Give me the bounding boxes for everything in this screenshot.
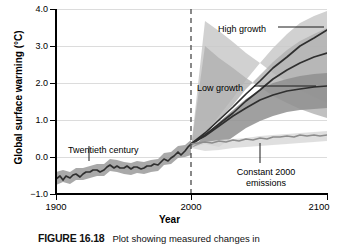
x-tick-label-1900: 1900 (36, 201, 76, 212)
figure-caption-text: Plot showing measured changes in (112, 233, 259, 244)
y-tick-label-neg1: −1.0 (22, 190, 48, 199)
x-axis-title: Year (0, 214, 339, 225)
y-tick-label-0: 0.0 (22, 153, 48, 162)
x-tick-mark-2100 (327, 195, 328, 200)
annotation-twentieth-century: Twentieth century (68, 145, 139, 155)
figure-number: FIGURE 16.18 (38, 232, 104, 244)
y-tick-label-3: 3.0 (22, 42, 48, 51)
chart-figure: Global surface warming (°C) 4.0 3.0 2.0 … (0, 0, 339, 232)
y-tick-label-2: 2.0 (22, 79, 48, 88)
annotation-constant-2000: Constant 2000 emissions (228, 167, 304, 189)
figure-page: Global surface warming (°C) 4.0 3.0 2.0 … (0, 0, 339, 246)
annotation-high-growth: High growth (218, 24, 266, 34)
x-tick-mark-2000 (191, 195, 192, 200)
y-tick-label-1: 1.0 (22, 116, 48, 125)
figure-caption: FIGURE 16.18 Plot showing measured chang… (38, 232, 318, 246)
x-tick-label-2000: 2000 (171, 201, 211, 212)
x-tick-label-2100: 2100 (299, 201, 339, 212)
annotation-low-growth: Low growth (197, 83, 243, 93)
y-tick-label-4: 4.0 (22, 5, 48, 14)
x-tick-mark-1900 (56, 195, 57, 200)
x-axis-line (55, 193, 328, 195)
y-axis-line (55, 9, 57, 195)
